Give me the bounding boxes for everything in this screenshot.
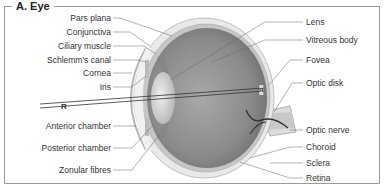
label-optic-nerve: Optic nerve	[306, 125, 349, 135]
iris-shape	[145, 60, 149, 78]
label-pars-plana: Pars plana	[70, 13, 111, 23]
label-cornea: Cornea	[83, 68, 111, 78]
label-fovea: Fovea	[306, 55, 330, 65]
label-choroid: Choroid	[306, 142, 336, 152]
label-schlemms-canal: Schlemm's canal	[47, 55, 111, 65]
object-marker: R	[61, 102, 67, 112]
label-posterior-chamber: Posterior chamber	[42, 143, 111, 153]
label-lens: Lens	[306, 17, 324, 27]
label-iris: Iris	[100, 82, 111, 92]
label-optic-disk: Optic disk	[306, 78, 343, 88]
label-vitreous-body: Vitreous body	[306, 35, 358, 45]
label-ciliary-muscle: Ciliary muscle	[58, 41, 111, 51]
label-zonular-fibres: Zonular fibres	[59, 165, 111, 175]
label-sclera: Sclera	[306, 158, 330, 168]
label-conjunctiva: Conjunctiva	[67, 27, 111, 37]
label-retina: Retina	[306, 173, 331, 183]
label-anterior-chamber: Anterior chamber	[46, 121, 111, 131]
image-marker: R	[259, 85, 263, 95]
